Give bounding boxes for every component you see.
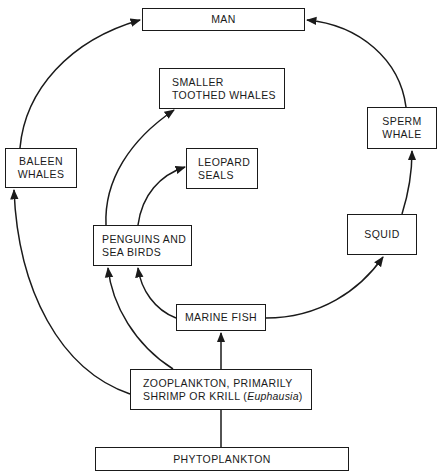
node-sperm-whale: SPERM WHALE	[367, 107, 437, 149]
node-label: MARINE FISH	[185, 311, 257, 324]
node-label-line1: LEOPARD	[198, 156, 250, 169]
arrow-squid-to-sperm-whale	[402, 151, 412, 214]
node-label-line1: BALEEN	[19, 155, 63, 168]
node-marine-fish: MARINE FISH	[176, 304, 266, 331]
node-label-line2: TOOTHED WHALES	[172, 89, 276, 102]
node-leopard-seals: LEOPARD SEALS	[186, 148, 258, 189]
arrow-zooplankton-to-penguins	[108, 268, 173, 369]
node-label-line1: ZOOPLANKTON, PRIMARILY	[143, 377, 293, 390]
node-label-line2: WHALES	[18, 168, 65, 181]
node-label-line2: SEA BIRDS	[102, 246, 161, 259]
node-baleen-whales: BALEEN WHALES	[5, 148, 77, 188]
node-label: SQUID	[364, 228, 399, 241]
node-zooplankton: ZOOPLANKTON, PRIMARILY SHRIMP OR KRILL (…	[130, 369, 312, 410]
node-label-line2-text: SHRIMP OR KRILL (	[143, 390, 247, 402]
node-man: MAN	[142, 8, 305, 31]
node-label-line2: SHRIMP OR KRILL (Euphausia)	[143, 390, 303, 403]
arrow-sperm-whale-to-man	[307, 20, 406, 107]
node-label: PHYTOPLANKTON	[173, 453, 271, 466]
node-label-line1: PENGUINS AND	[102, 233, 186, 246]
node-phytoplankton: PHYTOPLANKTON	[95, 447, 349, 471]
node-label-italic: Euphausia	[247, 390, 298, 402]
node-label-line2: WHALE	[382, 128, 421, 141]
node-smaller-toothed-whales: SMALLER TOOTHED WHALES	[159, 68, 285, 109]
node-penguins-sea-birds: PENGUINS AND SEA BIRDS	[93, 225, 192, 266]
arrow-penguins-to-leopard-seals	[138, 167, 185, 225]
node-label-line1: SMALLER	[172, 76, 224, 89]
node-label-suffix: )	[299, 390, 303, 402]
node-label-line2: SEALS	[198, 169, 234, 182]
node-label-line1: SPERM	[382, 115, 421, 128]
arrow-penguins-to-toothed-whales	[106, 110, 174, 225]
arrow-marine-fish-to-squid	[266, 257, 383, 318]
arrow-marine-fish-to-penguins	[138, 268, 176, 318]
node-man-label: MAN	[211, 13, 236, 26]
arrow-baleen-to-man	[20, 20, 140, 148]
node-squid: SQUID	[347, 214, 417, 255]
